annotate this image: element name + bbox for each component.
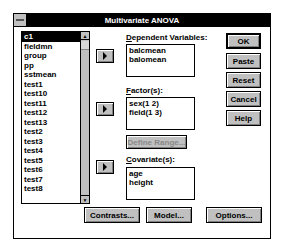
contrasts-button[interactable]: Contrasts... [84,207,140,223]
factors-label: Factor(s): [126,86,163,95]
list-item[interactable]: test8 [22,184,80,194]
list-item[interactable]: group [22,51,80,61]
list-item[interactable]: sex(1 2) [129,99,192,108]
reset-button[interactable]: Reset [226,72,261,88]
list-item[interactable]: balomean [129,55,192,64]
multivariate-anova-dialog: Multivariate ANOVA c1fieldmngroupppsstme… [13,13,271,239]
right-arrow-icon [103,105,107,113]
move-to-factors-button[interactable] [96,102,114,116]
list-item[interactable]: field(1 3) [129,108,192,117]
list-item[interactable]: fieldmn [22,42,80,52]
list-item[interactable]: test7 [22,175,80,185]
options-button[interactable]: Options... [206,207,262,223]
list-item[interactable]: test6 [22,165,80,175]
list-item[interactable]: age [129,169,192,178]
scroll-up-arrow-icon[interactable]: ▲ [81,32,89,40]
list-item[interactable]: test10 [22,89,80,99]
help-button[interactable]: Help [226,110,261,126]
system-menu-icon[interactable] [14,14,27,26]
dependent-variables-list[interactable]: balcmean balomean [126,44,195,77]
list-item[interactable]: sstmean [22,70,80,80]
scroll-down-arrow-icon[interactable]: ▼ [81,195,89,203]
paste-button[interactable]: Paste [226,53,261,69]
list-item[interactable]: test5 [22,156,80,166]
list-item[interactable]: test13 [22,118,80,128]
list-item[interactable]: height [129,178,192,187]
list-item[interactable]: test11 [22,99,80,109]
right-arrow-icon [103,163,107,171]
list-item[interactable]: test12 [22,108,80,118]
list-item[interactable]: balcmean [129,46,192,55]
source-variable-items: c1fieldmngroupppsstmeantest1test10test11… [22,32,80,194]
right-arrow-icon [103,52,107,60]
model-button[interactable]: Model... [146,207,192,223]
ok-button[interactable]: OK [226,33,261,49]
list-item[interactable]: test2 [22,127,80,137]
source-variable-list[interactable]: c1fieldmngroupppsstmeantest1test10test11… [21,31,90,204]
list-item[interactable]: c1 [22,32,80,42]
move-to-dependent-button[interactable] [96,49,114,63]
move-to-covariates-button[interactable] [96,160,114,174]
list-item[interactable]: test1 [22,80,80,90]
list-item[interactable]: test4 [22,146,80,156]
factors-list[interactable]: sex(1 2) field(1 3) [126,97,195,130]
window-title: Multivariate ANOVA [105,16,180,25]
list-item[interactable]: pp [22,61,80,71]
covariates-label: Covariate(s): [126,155,175,164]
scroll-thumb[interactable] [81,41,89,50]
dependent-variables-label: Dependent Variables: [126,33,207,42]
covariates-list[interactable]: age height [126,167,195,200]
list-item[interactable]: test3 [22,137,80,147]
title-bar: Multivariate ANOVA [14,14,270,27]
cancel-button[interactable]: Cancel [226,91,261,107]
vertical-scrollbar[interactable]: ▲ ▼ [80,32,89,203]
define-range-button[interactable]: Define Range... [126,135,187,149]
